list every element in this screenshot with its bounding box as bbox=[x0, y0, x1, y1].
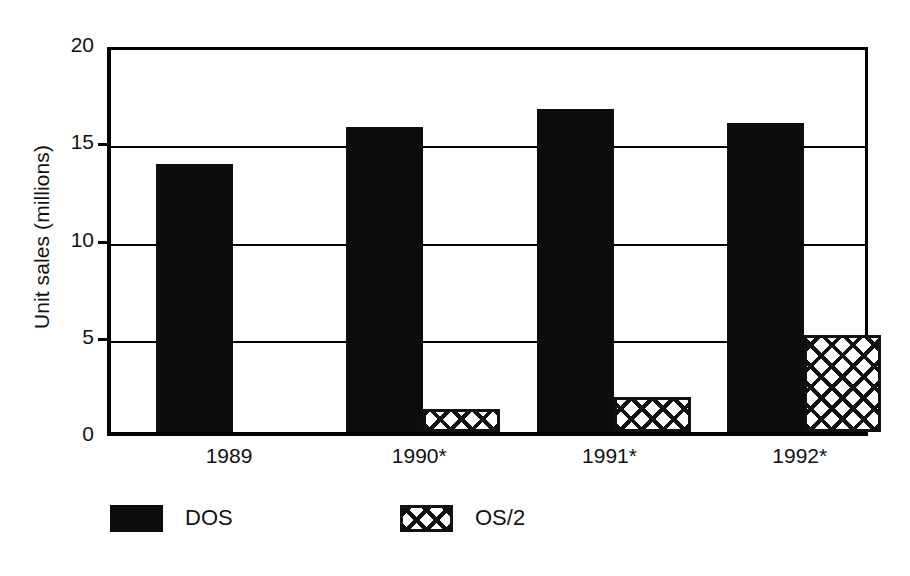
x-axis-tick-label: 1991* bbox=[520, 444, 700, 468]
bar-dos-1990 bbox=[346, 127, 423, 432]
x-axis-tick-label: 1989 bbox=[139, 444, 319, 468]
bar-dos-1989 bbox=[156, 164, 233, 432]
x-axis-tick-label: 1992* bbox=[710, 444, 890, 468]
bar-dos-1992 bbox=[727, 123, 804, 432]
y-axis-tick-label: 15 bbox=[34, 131, 94, 152]
y-axis-tick-label: 10 bbox=[34, 229, 94, 250]
chart-legend: DOSOS/2 bbox=[0, 498, 910, 544]
y-axis-tick-mark bbox=[98, 241, 107, 244]
y-axis-tick-mark bbox=[98, 143, 107, 146]
legend-label: OS/2 bbox=[475, 505, 525, 531]
plot-area bbox=[107, 47, 868, 436]
bar-os2-1990 bbox=[423, 409, 500, 432]
bar-chart-figure: Unit sales (millions) 05101520 19891990*… bbox=[0, 0, 910, 576]
y-axis-tick-label: 5 bbox=[34, 326, 94, 347]
bar-os2-1991 bbox=[614, 397, 691, 432]
plot-inner bbox=[111, 50, 865, 432]
bar-dos-1991 bbox=[537, 109, 614, 432]
bar-os2-1992 bbox=[804, 335, 881, 432]
x-axis-tick-label: 1990* bbox=[329, 444, 509, 468]
legend-entry-dos[interactable]: DOS bbox=[110, 498, 233, 538]
legend-entry-os2[interactable]: OS/2 bbox=[400, 498, 525, 538]
y-axis-tick-label: 20 bbox=[34, 34, 94, 55]
y-axis-tick-mark bbox=[98, 338, 107, 341]
crosshatch-swatch bbox=[400, 505, 453, 532]
y-axis-tick-label: 0 bbox=[34, 423, 94, 444]
solid-black-swatch bbox=[110, 505, 163, 532]
legend-label: DOS bbox=[185, 505, 233, 531]
